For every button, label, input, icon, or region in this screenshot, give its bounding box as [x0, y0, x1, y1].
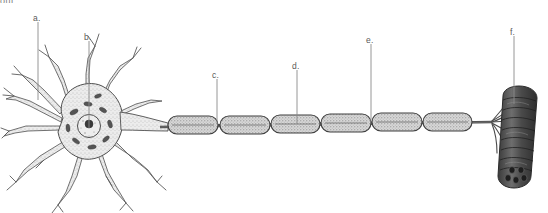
label-b: b.: [84, 33, 92, 42]
dendrite: [16, 140, 68, 182]
label-a: a.: [33, 14, 41, 23]
myelin-segment: [372, 113, 422, 131]
dendrite-branch: [52, 205, 63, 213]
dendrite-branch: [7, 176, 16, 190]
myelin-segment: [168, 116, 218, 134]
dendrite: [4, 126, 60, 136]
diagram-canvas: [0, 0, 548, 213]
myelin-segment: [423, 113, 472, 131]
neuron-diagram: out: [0, 0, 548, 213]
dendrite-branch: [120, 203, 133, 211]
dendrite-branch: [157, 176, 166, 190]
label-c: c.: [212, 71, 219, 80]
myelin-segment: [220, 116, 270, 134]
myelin-segment: [321, 114, 371, 132]
label-f: f.: [510, 28, 515, 37]
label-e: e.: [366, 36, 374, 45]
dendrite-branch: [3, 88, 14, 96]
label-d: d.: [292, 62, 300, 71]
dendrite-branch: [12, 66, 22, 75]
dendrite-branch: [133, 47, 141, 58]
muscle-fiber-group: [498, 86, 537, 188]
soma-group: [1, 34, 168, 213]
myelin-segment: [271, 115, 320, 133]
dendrite: [110, 138, 157, 182]
muscle-fiber: [498, 86, 537, 188]
dendrite-branch: [39, 45, 49, 57]
